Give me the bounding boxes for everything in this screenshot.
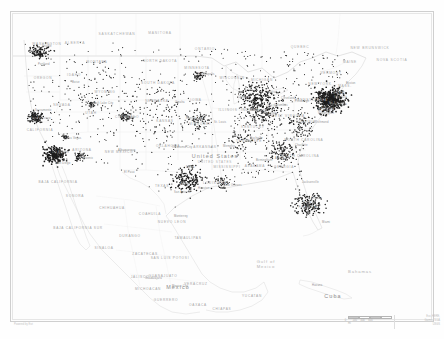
data-dot bbox=[296, 159, 297, 160]
data-dot bbox=[278, 141, 279, 142]
data-dot bbox=[283, 118, 284, 119]
data-dot bbox=[61, 157, 63, 159]
data-dot bbox=[59, 75, 60, 76]
data-dot bbox=[314, 202, 316, 204]
data-dot bbox=[123, 118, 124, 119]
data-dot bbox=[31, 115, 32, 117]
scale-bar: 0200400600 mi bbox=[348, 315, 392, 326]
data-dot bbox=[59, 122, 60, 123]
data-dot bbox=[44, 149, 46, 151]
data-dot bbox=[251, 86, 252, 87]
data-dot bbox=[315, 208, 317, 210]
data-dot bbox=[114, 73, 115, 74]
data-dot bbox=[317, 205, 319, 207]
data-dot bbox=[254, 54, 255, 55]
data-dot bbox=[75, 160, 76, 161]
data-dot bbox=[249, 105, 251, 107]
data-dot bbox=[169, 95, 170, 96]
data-dot bbox=[51, 146, 53, 148]
data-dot bbox=[235, 135, 236, 136]
data-dot bbox=[301, 107, 302, 108]
data-dot bbox=[79, 153, 80, 154]
data-dot bbox=[164, 127, 165, 128]
data-dot bbox=[80, 159, 81, 160]
data-dot bbox=[322, 95, 324, 97]
data-dot bbox=[262, 112, 263, 113]
data-dot bbox=[68, 98, 69, 99]
data-dot bbox=[254, 116, 255, 117]
data-dot bbox=[155, 114, 156, 115]
data-dot bbox=[100, 74, 101, 75]
data-dot bbox=[319, 109, 321, 111]
data-dot bbox=[220, 179, 221, 180]
data-dot bbox=[302, 195, 304, 197]
data-dot bbox=[156, 138, 157, 139]
data-dot bbox=[260, 106, 262, 108]
data-dot bbox=[316, 97, 318, 99]
data-dot bbox=[338, 98, 340, 100]
data-dot bbox=[65, 154, 67, 156]
data-dot bbox=[232, 141, 233, 142]
data-dot bbox=[255, 86, 257, 88]
data-dot bbox=[112, 51, 113, 52]
data-dot bbox=[72, 128, 73, 129]
data-dot bbox=[92, 97, 93, 98]
data-dot bbox=[321, 103, 323, 105]
data-dot bbox=[101, 107, 102, 108]
data-dot bbox=[332, 61, 333, 62]
data-dot bbox=[171, 136, 172, 137]
data-dot bbox=[166, 109, 167, 110]
data-dot bbox=[259, 170, 260, 171]
data-dot bbox=[334, 97, 336, 99]
data-dot bbox=[124, 109, 125, 110]
data-dot bbox=[138, 87, 139, 88]
data-dot bbox=[36, 44, 38, 46]
baja-peninsula bbox=[52, 166, 90, 250]
data-dot bbox=[200, 177, 202, 179]
data-dot bbox=[149, 94, 150, 95]
data-dot bbox=[140, 89, 141, 90]
data-dot bbox=[187, 181, 189, 183]
data-dot bbox=[257, 116, 258, 117]
data-dot bbox=[153, 51, 154, 52]
data-dot bbox=[30, 48, 32, 50]
data-dot bbox=[237, 53, 238, 54]
data-dot bbox=[224, 142, 225, 143]
data-dot bbox=[260, 109, 261, 110]
data-dot bbox=[41, 113, 42, 114]
data-dot bbox=[141, 60, 142, 61]
data-dot bbox=[293, 120, 294, 121]
data-dot bbox=[45, 42, 47, 44]
data-dot bbox=[42, 46, 44, 48]
data-dot bbox=[254, 108, 256, 110]
map-vector-layer bbox=[0, 0, 444, 339]
data-dot bbox=[32, 121, 34, 123]
data-dot bbox=[179, 118, 180, 119]
data-dot bbox=[351, 94, 353, 96]
data-dot bbox=[230, 147, 231, 148]
data-dot bbox=[252, 100, 253, 101]
data-dot bbox=[41, 121, 43, 123]
attribution-text[interactable]: Esri, HERE, Garmin, NGA USGS bbox=[394, 315, 440, 327]
mexico-east-coast bbox=[166, 216, 268, 312]
data-dot bbox=[312, 118, 313, 119]
data-dot bbox=[297, 213, 299, 215]
data-dot bbox=[277, 92, 279, 94]
data-dot bbox=[197, 72, 198, 73]
data-dot bbox=[228, 138, 229, 139]
data-dot bbox=[226, 184, 227, 185]
data-dot bbox=[33, 51, 35, 53]
data-dot bbox=[183, 184, 184, 185]
data-dot bbox=[254, 103, 255, 104]
map-canvas[interactable]: United StatesUNITED STATESMexicoCubaGulf… bbox=[0, 0, 444, 339]
data-dot bbox=[66, 158, 67, 159]
data-dot bbox=[107, 108, 108, 109]
data-dot bbox=[296, 207, 298, 209]
powered-by-note: Powered by Esri bbox=[14, 323, 33, 326]
data-dot bbox=[224, 184, 225, 185]
data-dot bbox=[174, 77, 175, 78]
data-dot bbox=[282, 153, 283, 154]
data-dot bbox=[143, 141, 144, 142]
data-dot bbox=[157, 105, 158, 106]
data-dot bbox=[158, 49, 159, 50]
